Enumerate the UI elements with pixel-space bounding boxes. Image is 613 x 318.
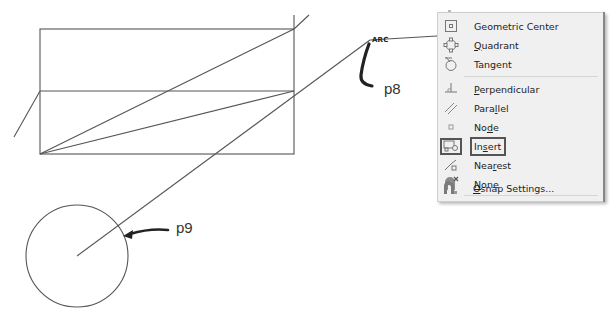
diagonal-line-mid[interactable] [40,91,294,154]
nearest-icon [441,156,461,174]
menu-right-border [603,12,605,202]
p8-label: p8 [384,80,401,97]
menu-item-label: Geometric Center [474,21,559,32]
menu-item-label: Nearest [474,160,511,171]
menu-item-nearest[interactable]: Nearest [440,155,600,175]
left-slant-line[interactable] [14,91,40,137]
menu-item-quadrant[interactable]: Quadrant [440,35,600,55]
menu-item-osnap-settings[interactable]: Osnap Settings... [439,178,599,198]
osnap-context-menu: Geometric Center Quadrant Tangent Perpen… [437,12,605,202]
node-icon [441,118,461,136]
insert-highlight-box: Insert [470,137,506,156]
quadrant-icon [441,36,461,54]
perpendicular-icon [441,80,461,98]
arc-marker-label: ARC [372,36,389,44]
top-slant-stub[interactable] [294,15,309,29]
p8-arrow [361,44,372,86]
insert-icon [440,138,462,155]
menu-item-label: Quadrant [474,40,519,51]
menu-item-insert[interactable]: Insert [440,136,600,156]
menu-item-label: Osnap Settings... [473,183,554,194]
menu-item-geometric-center[interactable]: Geometric Center [440,16,600,36]
menu-item-label: Insert [474,141,501,152]
menu-item-label: Tangent [474,59,512,70]
geometric-center-icon [441,17,461,35]
menu-item-label: Parallel [474,103,509,114]
menu-item-label: Node [474,122,499,133]
tangent-icon [441,55,461,73]
construction-line[interactable] [77,40,370,256]
menu-item-label: Perpendicular [474,84,539,95]
p9-label: p9 [176,219,193,236]
menu-item-perpendicular[interactable]: Perpendicular [440,79,600,99]
menu-separator [464,76,598,77]
parallel-icon [441,99,461,117]
menu-item-tangent[interactable]: Tangent [440,54,600,74]
menu-item-node[interactable]: Node [440,117,600,137]
menu-item-parallel[interactable]: Parallel [440,98,600,118]
osnap-settings-icon [440,179,460,197]
p9-arrow [130,230,168,235]
